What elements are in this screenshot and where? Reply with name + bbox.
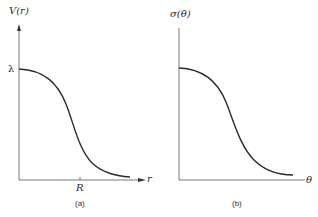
x-axis-label-a: r [147,174,152,184]
y-axis-label-b: σ(θ) [170,9,191,19]
panel-b [179,28,305,180]
y-axis-label-a: V(r) [9,6,29,16]
diagram-canvas [0,0,318,217]
x-axis-arrow-a-icon [138,178,146,182]
caption-b: (b) [232,199,242,208]
x-axis-label-b: θ [306,175,312,185]
panel-a [17,24,146,182]
r-tick-label: R [76,183,84,193]
lambda-tick-label: λ [8,64,14,74]
potential-curve [19,69,130,177]
y-axis-arrow-a-icon [17,24,21,31]
caption-a: (a) [75,199,85,208]
cross-section-curve [179,68,293,175]
